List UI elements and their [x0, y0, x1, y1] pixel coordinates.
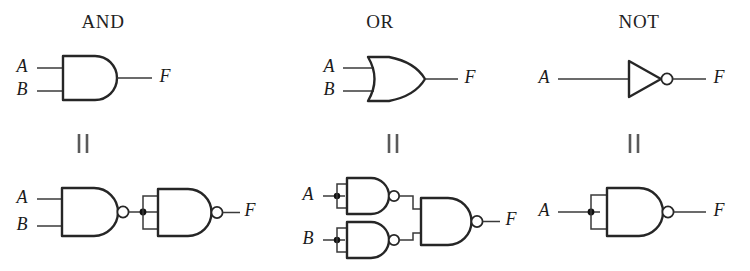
or-column-nand-circuit: A B F	[302, 178, 518, 258]
figure-canvas: AND OR NOT A B F	[0, 0, 750, 271]
not-column-nand-circuit: A F	[538, 188, 726, 236]
inverter-bubble-1	[117, 206, 128, 217]
label-input-a: A	[302, 184, 315, 204]
column-title-or: OR	[366, 11, 394, 32]
column-title-and: AND	[82, 11, 125, 32]
column-title-not: NOT	[619, 11, 660, 32]
nand-gate-body	[607, 188, 663, 236]
inverter-bubble	[662, 206, 673, 217]
wire-top-to-final	[399, 196, 421, 209]
and-gate-body	[63, 56, 117, 100]
label-output-f: F	[159, 66, 172, 86]
and-column-nand-circuit: A B F	[16, 187, 257, 236]
wire-junction-down	[143, 212, 158, 229]
equivalence-symbol-not	[630, 134, 638, 153]
nand-gate-body-1	[62, 188, 118, 236]
nand-gate-body-final	[421, 198, 472, 245]
label-input-b: B	[324, 79, 335, 99]
wire-bottom-to-final	[399, 233, 421, 240]
and-column-top-gate: A B F	[16, 56, 172, 100]
label-output-f: F	[464, 67, 477, 87]
or-column-top-gate: A B F	[323, 56, 477, 101]
label-input-a: A	[323, 56, 336, 76]
inverter-bubble-2	[211, 207, 222, 218]
label-output-f: F	[505, 209, 518, 229]
label-output-f: F	[713, 200, 726, 220]
label-output-f: F	[244, 200, 257, 220]
equivalence-symbol-and	[79, 134, 87, 153]
label-input-b: B	[17, 214, 28, 234]
label-output-f: F	[713, 67, 726, 87]
not-column-top-gate: A F	[538, 61, 726, 97]
nand-gate-body-2	[158, 189, 212, 236]
inverter-bubble	[661, 73, 672, 84]
nand-gate-body-top	[347, 178, 389, 214]
label-input-a: A	[538, 200, 551, 220]
label-input-a: A	[16, 187, 29, 207]
label-input-b: B	[17, 79, 28, 99]
logic-gate-equivalence-figure: AND OR NOT A B F	[0, 0, 750, 271]
inverter-bubble-bottom	[389, 235, 399, 245]
or-gate-body	[368, 57, 425, 101]
nand-gate-body-bottom	[347, 222, 389, 258]
label-input-a: A	[538, 67, 551, 87]
inverter-bubble-final	[471, 216, 482, 227]
not-gate-triangle	[629, 61, 661, 97]
wire-junction-up	[591, 195, 607, 212]
wire-junction-down	[591, 212, 607, 229]
equivalence-symbol-or	[389, 134, 397, 153]
label-input-b: B	[303, 228, 314, 248]
inverter-bubble-top	[389, 191, 399, 201]
label-input-a: A	[16, 56, 29, 76]
